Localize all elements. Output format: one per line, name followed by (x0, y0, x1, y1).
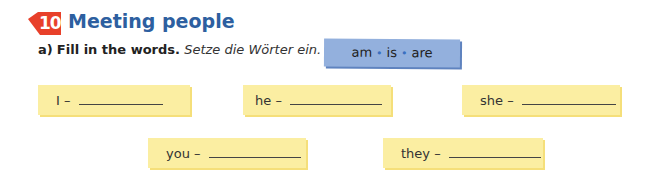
pronoun: you (166, 146, 190, 161)
answer-blank[interactable] (209, 146, 301, 158)
answer-card-they: they – (383, 138, 543, 168)
answer-blank[interactable] (290, 93, 382, 105)
exercise-number-badge: 10 (26, 11, 60, 35)
answer-card-he: he – (243, 85, 391, 115)
answer-card-she: she – (462, 85, 620, 115)
dash: – (507, 93, 514, 108)
instruction: a) Fill in the words. Setze die Wörter e… (38, 42, 321, 57)
bullet-icon: • (376, 47, 383, 60)
instruction-label: a) (38, 42, 53, 57)
dash: – (434, 146, 441, 161)
pronoun: I (56, 93, 60, 108)
word-box: am•is•are (324, 39, 460, 68)
word-are: are (411, 45, 432, 60)
answer-blank[interactable] (522, 93, 616, 105)
pronoun: she (480, 93, 503, 108)
dash: – (64, 93, 71, 108)
answer-card-you: you – (148, 138, 306, 168)
exercise-number: 10 (39, 13, 61, 33)
word-is: is (387, 45, 397, 60)
exercise-title: Meeting people (68, 10, 235, 32)
dash: – (194, 146, 201, 161)
answer-card-i: I – (38, 85, 190, 115)
instruction-german: Setze die Wörter ein. (184, 42, 321, 57)
instruction-english: Fill in the words. (57, 42, 180, 57)
dash: – (275, 93, 282, 108)
word-am: am (351, 45, 372, 60)
pronoun: they (401, 146, 430, 161)
answer-blank[interactable] (79, 93, 163, 105)
bullet-icon: • (401, 47, 408, 60)
pronoun: he (255, 93, 271, 108)
answer-blank[interactable] (449, 146, 541, 158)
